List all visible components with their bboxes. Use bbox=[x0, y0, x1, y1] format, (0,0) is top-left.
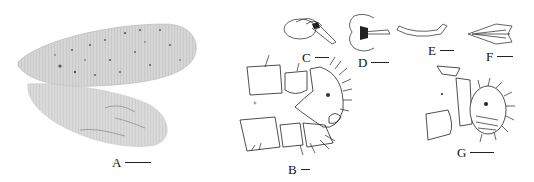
female-terminalia-illustration bbox=[420, 60, 520, 142]
panel-letter: G bbox=[457, 146, 466, 159]
scale-bar-icon bbox=[315, 57, 329, 58]
panel-c: C bbox=[282, 12, 342, 57]
scale-bar-icon bbox=[301, 169, 310, 170]
panel-letter: A bbox=[112, 156, 121, 169]
genital-sclerite-illustration bbox=[395, 20, 455, 44]
panel-e-label: E bbox=[428, 44, 454, 57]
panel-b-label: B bbox=[288, 163, 310, 176]
panel-letter: C bbox=[302, 51, 311, 64]
scale-bar-icon bbox=[440, 50, 454, 51]
panel-g-label: G bbox=[457, 146, 494, 159]
panel-letter: E bbox=[428, 44, 436, 57]
panel-letter: B bbox=[288, 163, 297, 176]
panel-d-label: D bbox=[358, 56, 389, 69]
panel-g: G bbox=[420, 60, 520, 160]
scale-bar-icon bbox=[125, 162, 151, 163]
panel-b: B bbox=[225, 55, 365, 182]
panel-a: A bbox=[0, 0, 230, 182]
panel-f: F bbox=[466, 22, 526, 64]
scale-bar-icon bbox=[371, 62, 389, 63]
panel-e: E bbox=[395, 20, 455, 60]
panel-letter: D bbox=[358, 56, 367, 69]
genital-lateral-illustration bbox=[282, 12, 342, 52]
scale-bar-icon bbox=[497, 56, 513, 57]
scale-bar-icon bbox=[470, 152, 494, 153]
panel-c-label: C bbox=[302, 51, 329, 64]
genital-plate-illustration bbox=[466, 22, 526, 48]
panel-a-label: A bbox=[112, 156, 151, 169]
